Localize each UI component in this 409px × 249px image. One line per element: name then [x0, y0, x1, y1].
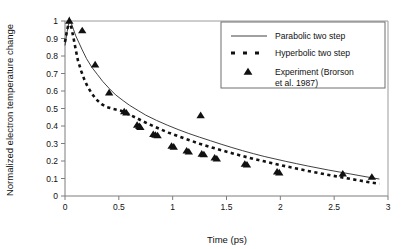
y-tick-label: 0.5: [46, 104, 58, 114]
legend-label-0: Parabolic two step: [275, 31, 345, 41]
chart-svg: 00.511.522.53 00.10.20.30.40.50.60.70.80…: [0, 0, 409, 249]
chart-legend: Parabolic two stepHyperbolic two stepExp…: [221, 22, 385, 88]
y-axis-title: Normalized electron temperature change: [4, 24, 15, 196]
y-tick-label: 0: [53, 191, 58, 201]
x-tick-label: 1.5: [221, 202, 233, 212]
data-point-triangle: [65, 17, 73, 24]
data-point-triangle: [91, 61, 99, 68]
y-tick-label: 0.3: [46, 139, 58, 149]
y-tick-label: 0.9: [46, 34, 58, 44]
data-point-triangle: [105, 89, 113, 96]
x-tick-label: 2.5: [328, 202, 340, 212]
y-tick-labels: 00.10.20.30.40.50.60.70.80.91: [46, 16, 58, 201]
y-tick-label: 0.4: [46, 121, 58, 131]
x-tick-label: 1: [170, 202, 175, 212]
y-tick-label: 0.6: [46, 86, 58, 96]
y-tick-label: 0.2: [46, 156, 58, 166]
x-tick-label: 3: [386, 202, 391, 212]
legend-label-1: Hyperbolic two step: [275, 48, 350, 58]
data-point-triangle: [368, 173, 376, 180]
y-tick-label: 1: [53, 16, 58, 26]
x-tick-label: 0: [63, 202, 68, 212]
legend-label-2-line2: et al. 1987): [275, 78, 318, 88]
x-axis-title: Time (ps): [207, 234, 247, 245]
data-point-triangle: [78, 27, 86, 34]
legend-label-2: Experiment (Brorson: [275, 67, 354, 77]
x-tick-label: 0.5: [113, 202, 125, 212]
x-tick-label: 2: [278, 202, 283, 212]
y-tick-label: 0.7: [46, 69, 58, 79]
y-tick-label: 0.8: [46, 51, 58, 61]
chart-figure: 00.511.522.53 00.10.20.30.40.50.60.70.80…: [0, 0, 409, 249]
x-tick-labels: 00.511.522.53: [63, 202, 391, 212]
y-tick-label: 0.1: [46, 174, 58, 184]
data-point-triangle: [196, 112, 204, 119]
